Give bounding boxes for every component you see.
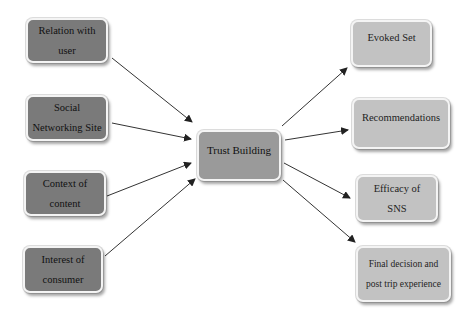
arrow-relation-to-trust xyxy=(112,58,192,122)
node-interest-of-consumer: Interest of consumer xyxy=(23,246,103,293)
node-relation-with-user: Relation with user xyxy=(26,18,108,63)
arrow-trust-to-efficacy xyxy=(284,163,350,198)
node-social-networking-site: Social Networking Site xyxy=(26,95,108,141)
node-label-line: Relation with xyxy=(39,21,96,41)
node-context-of-content: Context of content xyxy=(24,171,106,216)
node-evoked-set: Evoked Set xyxy=(351,20,432,67)
arrow-context-to-trust xyxy=(107,163,191,196)
node-label-line: Interest of xyxy=(42,250,85,270)
node-label-line: Evoked Set xyxy=(367,28,415,48)
node-label-line: Recommendations xyxy=(362,108,440,128)
node-label-line: Final decision and xyxy=(369,254,439,274)
arrow-trust-to-final xyxy=(283,180,355,242)
arrow-interest-to-trust xyxy=(105,179,195,256)
node-label-line: Efficacy of xyxy=(374,179,421,199)
node-label-line: SNS xyxy=(387,199,406,219)
node-recommendations: Recommendations xyxy=(352,98,450,149)
arrow-trust-to-evoked xyxy=(282,68,347,126)
node-label-line: consumer xyxy=(43,270,84,290)
node-label-line: Context of xyxy=(43,174,88,194)
node-final-decision: Final decision and post trip experience xyxy=(356,246,451,302)
node-label-line: post trip experience xyxy=(366,274,441,294)
node-label-line: Networking Site xyxy=(32,118,101,138)
node-efficacy-of-sns: Efficacy of SNS xyxy=(356,175,438,222)
node-label-line: user xyxy=(58,41,76,61)
node-label-line: Trust Building xyxy=(207,140,271,160)
node-label-line: content xyxy=(50,194,81,214)
node-label-line: Social xyxy=(54,98,80,118)
node-trust-building: Trust Building xyxy=(197,130,281,181)
arrow-sns-to-trust xyxy=(112,123,191,139)
arrow-trust-to-recommendations xyxy=(285,130,348,140)
